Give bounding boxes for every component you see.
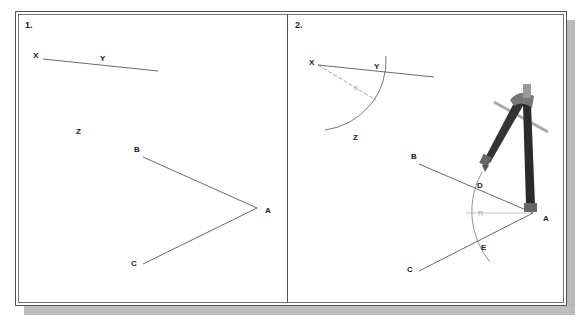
point-e-label: E (481, 243, 487, 252)
point-a-label: A (265, 206, 271, 215)
point-z-label: Z (76, 127, 81, 136)
point-z-label: Z (353, 133, 358, 142)
point-b-label: B (411, 152, 417, 161)
angle-bac (143, 157, 257, 264)
point-a-label: A (543, 214, 549, 223)
point-x-label: X (33, 51, 39, 60)
construction-diagram: X Y Z B A C X Y Z B A C D E R (0, 0, 582, 323)
point-b-label: B (134, 145, 140, 154)
point-x-label: X (309, 58, 315, 67)
compass-icon (479, 84, 548, 212)
point-y-label: Y (100, 54, 106, 63)
point-y-label: Y (374, 62, 380, 71)
point-c-label: C (131, 259, 137, 268)
point-c-label: C (407, 265, 413, 274)
radius-label: R (478, 210, 483, 217)
panel-2-drawing: X Y Z B A C D E R (309, 56, 549, 274)
point-d-label: D (477, 181, 483, 190)
angle-bac (419, 164, 533, 271)
panel-1-drawing: X Y Z B A C (33, 51, 271, 268)
